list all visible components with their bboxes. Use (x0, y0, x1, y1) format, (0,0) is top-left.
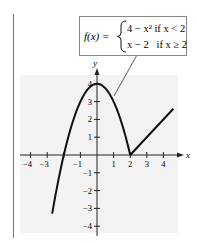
plot-area-background (20, 75, 178, 233)
x-tick-label: 2 (128, 159, 132, 169)
x-tick-label: 3 (145, 159, 149, 169)
y-axis-arrow-icon (95, 68, 100, 75)
y-axis-label: y (92, 58, 97, 68)
y-tick-label: 3 (88, 97, 92, 107)
formula-lhs: f(x) = (84, 30, 109, 43)
x-axis-label: x (185, 150, 190, 160)
y-tick-label: −2 (83, 186, 92, 196)
x-axis-arrow-icon (177, 153, 184, 158)
y-tick-label: −1 (83, 168, 92, 178)
x-tick-label: 4 (161, 159, 166, 169)
y-tick-label: 2 (88, 114, 92, 124)
formula-piece-1: 4 − x² if x < 2 (127, 23, 185, 34)
x-tick-label: −4 (23, 159, 33, 169)
y-tick-label: −4 (83, 221, 93, 231)
x-tick-label: −3 (40, 159, 49, 169)
formula-piece-2: x − 2 if x ≥ 2 (127, 39, 187, 50)
y-tick-label: −3 (83, 203, 92, 213)
x-tick-label: 1 (111, 159, 115, 169)
y-tick-label: 1 (88, 132, 92, 142)
x-tick-label: −1 (73, 159, 82, 169)
graph-figure: f(x) = 4 − x² if x < 2 x − 2 if x ≥ 2 y … (0, 0, 197, 243)
